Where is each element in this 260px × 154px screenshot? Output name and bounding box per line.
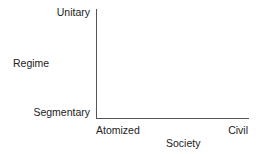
y-axis-title: Regime [13,57,49,69]
x-axis-line [96,118,249,119]
y-axis-line [96,9,97,119]
y-axis-bottom-label: Segmentary [33,106,90,118]
x-axis-right-label: Civil [228,124,248,136]
x-axis-left-label: Atomized [96,124,140,136]
x-axis-title: Society [166,137,200,149]
y-axis-top-label: Unitary [57,6,90,18]
